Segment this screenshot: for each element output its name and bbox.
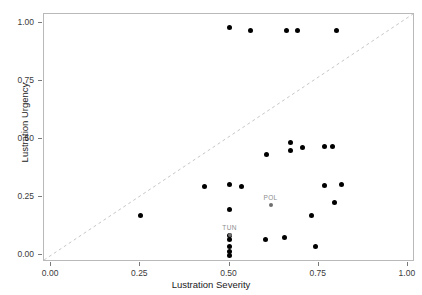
data-point [322, 183, 327, 188]
point-label-tun: TUN [222, 224, 236, 231]
data-point [227, 25, 232, 30]
identity-line-segment [44, 14, 413, 260]
identity-reference-line [44, 14, 413, 260]
y-axis-title: Lustration Urgency [19, 43, 30, 203]
data-point [288, 140, 293, 145]
data-point [322, 144, 327, 149]
data-point [138, 213, 143, 218]
data-point [239, 184, 244, 189]
data-point [284, 28, 289, 33]
y-axis-tick-label: 1.00 [17, 17, 34, 27]
y-axis-tick [38, 196, 42, 197]
data-point [227, 207, 232, 212]
data-point [300, 145, 305, 150]
x-axis-tick [50, 262, 51, 266]
data-point [288, 148, 293, 153]
data-point [282, 235, 287, 240]
data-point [330, 144, 335, 149]
highlighted-data-point-pol [269, 203, 273, 207]
data-point [332, 200, 337, 205]
data-point [227, 182, 232, 187]
highlighted-data-point-tun [228, 233, 232, 237]
y-axis-tick [38, 254, 42, 255]
data-point [313, 244, 318, 249]
plot-panel: POLTUN [43, 13, 414, 261]
data-point [295, 28, 300, 33]
x-axis-tick [407, 262, 408, 266]
data-point [263, 237, 268, 242]
x-axis-tick-label: 0.25 [131, 268, 148, 278]
scatter-plot-figure: POLTUN 0.000.250.500.751.000.000.250.500… [0, 0, 422, 295]
y-axis-tick-label: 0.00 [17, 249, 34, 259]
data-point [309, 213, 314, 218]
x-axis-tick-label: 1.00 [399, 268, 416, 278]
y-axis-tick [38, 80, 42, 81]
x-axis-tick [139, 262, 140, 266]
data-point [248, 28, 253, 33]
y-axis-tick [38, 22, 42, 23]
point-label-pol: POL [264, 194, 278, 201]
x-axis-tick-label: 0.00 [42, 268, 59, 278]
x-axis-tick [318, 262, 319, 266]
data-point [227, 253, 232, 258]
data-point [339, 182, 344, 187]
x-axis-tick [229, 262, 230, 266]
y-axis-tick [38, 138, 42, 139]
data-point [202, 184, 207, 189]
x-axis-title: Lustration Severity [0, 279, 422, 290]
data-point [227, 237, 232, 242]
data-point [264, 152, 269, 157]
x-axis-tick-label: 0.75 [309, 268, 326, 278]
data-point [334, 28, 339, 33]
x-axis-tick-label: 0.50 [220, 268, 237, 278]
